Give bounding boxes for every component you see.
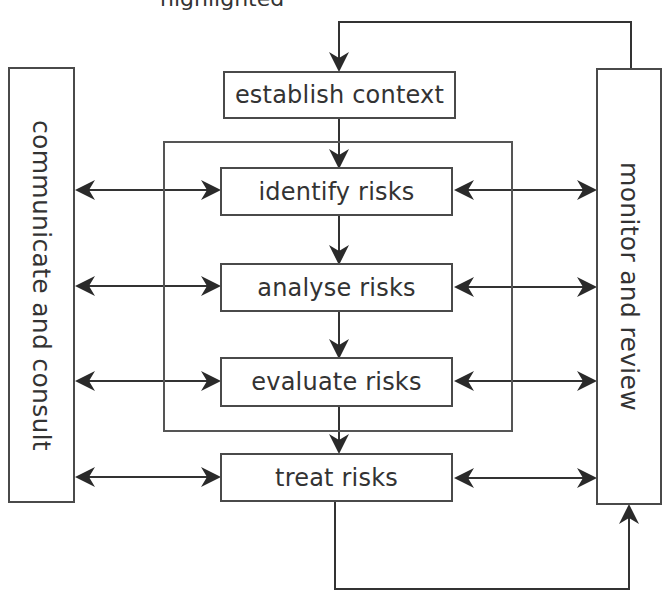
step-label: identify risks — [258, 178, 414, 206]
monitor-and-review-label: monitor and review — [615, 162, 644, 411]
step-analyse-risks: analyse risks — [220, 263, 453, 312]
feedback-top-line — [339, 22, 631, 70]
step-evaluate-risks: evaluate risks — [220, 357, 453, 407]
step-treat-risks: treat risks — [220, 453, 453, 502]
step-label: analyse risks — [257, 274, 415, 302]
monitor-and-review-panel: monitor and review — [596, 68, 662, 505]
feedback-bottom-line — [335, 501, 629, 589]
step-label: evaluate risks — [251, 368, 421, 396]
risk-management-diagram: highlighted communicate — [0, 0, 662, 599]
communicate-and-consult-panel: communicate and consult — [8, 67, 75, 503]
step-label: treat risks — [275, 464, 398, 492]
step-establish-context: establish context — [223, 71, 456, 119]
communicate-and-consult-label: communicate and consult — [27, 120, 56, 451]
step-identify-risks: identify risks — [220, 167, 453, 216]
step-label: establish context — [235, 81, 444, 109]
